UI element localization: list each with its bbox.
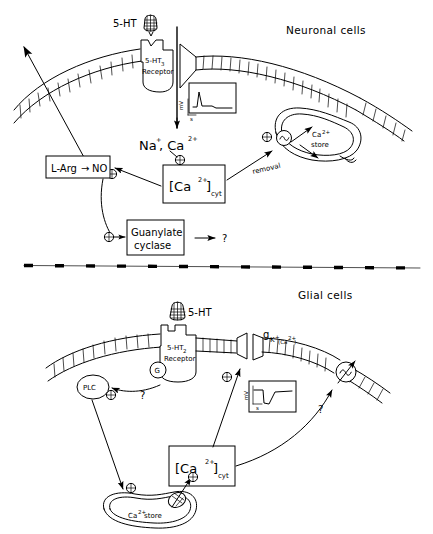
g-protein-node[interactable]: G xyxy=(150,362,166,378)
calcium-box-glial[interactable]: [Ca 2+ ] cyt xyxy=(169,446,235,486)
receptor-label-5ht3: 5-HT xyxy=(145,57,162,65)
calcium-box-text: [Ca xyxy=(169,179,191,194)
store-label-ca-neuronal: Ca xyxy=(312,131,321,139)
membrane-glial-mid xyxy=(196,338,237,353)
gc-label-line2: cyclase xyxy=(134,240,171,251)
plus-node-store-release-glial xyxy=(188,472,197,481)
calcium-box-neuronal[interactable]: [Ca 2+ ] cyt xyxy=(163,165,225,203)
larg-no-box[interactable]: L-Arg → NO xyxy=(46,156,110,178)
store-label-store-neuronal: store xyxy=(311,141,329,149)
inset-depolarization: mV s xyxy=(178,83,236,122)
inset-y-label-glial: mV xyxy=(243,391,249,400)
ion-label-ca-sup: 2+ xyxy=(188,135,198,143)
larg-label: L-Arg xyxy=(51,163,77,174)
receptor-5ht3[interactable]: 5-HT 3 Receptor xyxy=(141,40,173,92)
inset-hyperpolarization: mV s xyxy=(243,381,296,412)
panel-glial: Glial cells 5-HT xyxy=(46,289,390,528)
receptor-label-receptor-glial: Receptor xyxy=(164,355,195,363)
inset-x-label-neuronal: s xyxy=(190,116,193,122)
no-label: NO xyxy=(92,163,107,174)
plus-node-gc xyxy=(104,232,113,241)
gc-label-line1: Guanylate xyxy=(131,227,182,238)
question-mark-glial-pump: ? xyxy=(318,404,323,415)
arrow-ca-to-nos xyxy=(115,168,161,186)
plus-node-store-glial xyxy=(126,483,135,492)
membrane-pump-glial xyxy=(336,361,356,383)
plc-node[interactable]: PLC xyxy=(77,375,109,399)
store-label-ca-sup-neuronal: 2+ xyxy=(322,129,330,135)
question-mark-neuronal: ? xyxy=(222,233,227,244)
plus-node-pump-neuronal xyxy=(262,132,271,141)
inset-x-label-glial: s xyxy=(256,405,259,411)
receptor-label-5ht3-sub: 3 xyxy=(161,61,165,67)
larg-arrow-glyph: → xyxy=(81,163,89,174)
receptor-label-receptor: Receptor xyxy=(142,68,173,76)
receptor-label-5ht2: 5-HT xyxy=(167,344,184,352)
ion-label-group: Na + , Ca 2+ xyxy=(139,135,198,153)
ligand-label-5ht: 5-HT xyxy=(113,18,137,29)
ligand-5ht-neuronal: 5-HT xyxy=(113,15,157,36)
serotonin-vesicle-icon-glial xyxy=(170,302,185,320)
no-efflux-arrow xyxy=(24,47,92,172)
plus-node-plc xyxy=(106,390,115,399)
removal-label: removal xyxy=(252,162,282,176)
arrow-store-uptake xyxy=(291,127,312,142)
plus-node-kchannel xyxy=(222,372,231,381)
arrow-g-to-plc xyxy=(112,385,160,391)
question-mark-plc: ? xyxy=(140,390,145,401)
store-pump-neuronal xyxy=(277,131,292,146)
figure-canvas: Neuronal cells 5-HT 3 Receptor 5-HT xyxy=(0,0,433,534)
panel-title-neuronal: Neuronal cells xyxy=(286,24,366,36)
calcium-box-sub: cyt xyxy=(211,190,222,198)
guanylate-cyclase-box[interactable]: Guanylate cyclase xyxy=(127,220,184,255)
inset-y-label-neuronal: mV xyxy=(178,101,184,110)
arrow-plc-to-store xyxy=(92,400,123,489)
store-label-store-glial: store xyxy=(144,512,162,520)
calcium-box-sub-glial: cyt xyxy=(218,472,229,480)
g-protein-label: G xyxy=(155,367,160,375)
serotonin-vesicle-icon xyxy=(144,15,157,36)
membrane-neuronal-left xyxy=(14,49,142,123)
membrane-glial-left xyxy=(46,334,162,381)
arrow-no-to-gc xyxy=(101,179,112,236)
store-label-ca-glial: Ca xyxy=(128,512,137,520)
panel-title-glial: Glial cells xyxy=(298,289,353,301)
plus-node-ca-influx xyxy=(170,151,185,165)
plc-label: PLC xyxy=(83,384,96,392)
ion-label-na: Na xyxy=(139,138,157,153)
panel-neuronal: Neuronal cells 5-HT 3 Receptor 5-HT xyxy=(14,15,412,255)
receptor-label-5ht2-sub: 2 xyxy=(183,348,187,354)
calcium-store-neuronal: Ca 2+ store xyxy=(275,108,361,163)
panel-divider xyxy=(24,266,420,269)
ligand-5ht-glial: 5-HT xyxy=(170,302,212,320)
ligand-label-5ht-glial: 5-HT xyxy=(188,307,212,318)
ion-label-ca: , Ca xyxy=(159,138,184,153)
